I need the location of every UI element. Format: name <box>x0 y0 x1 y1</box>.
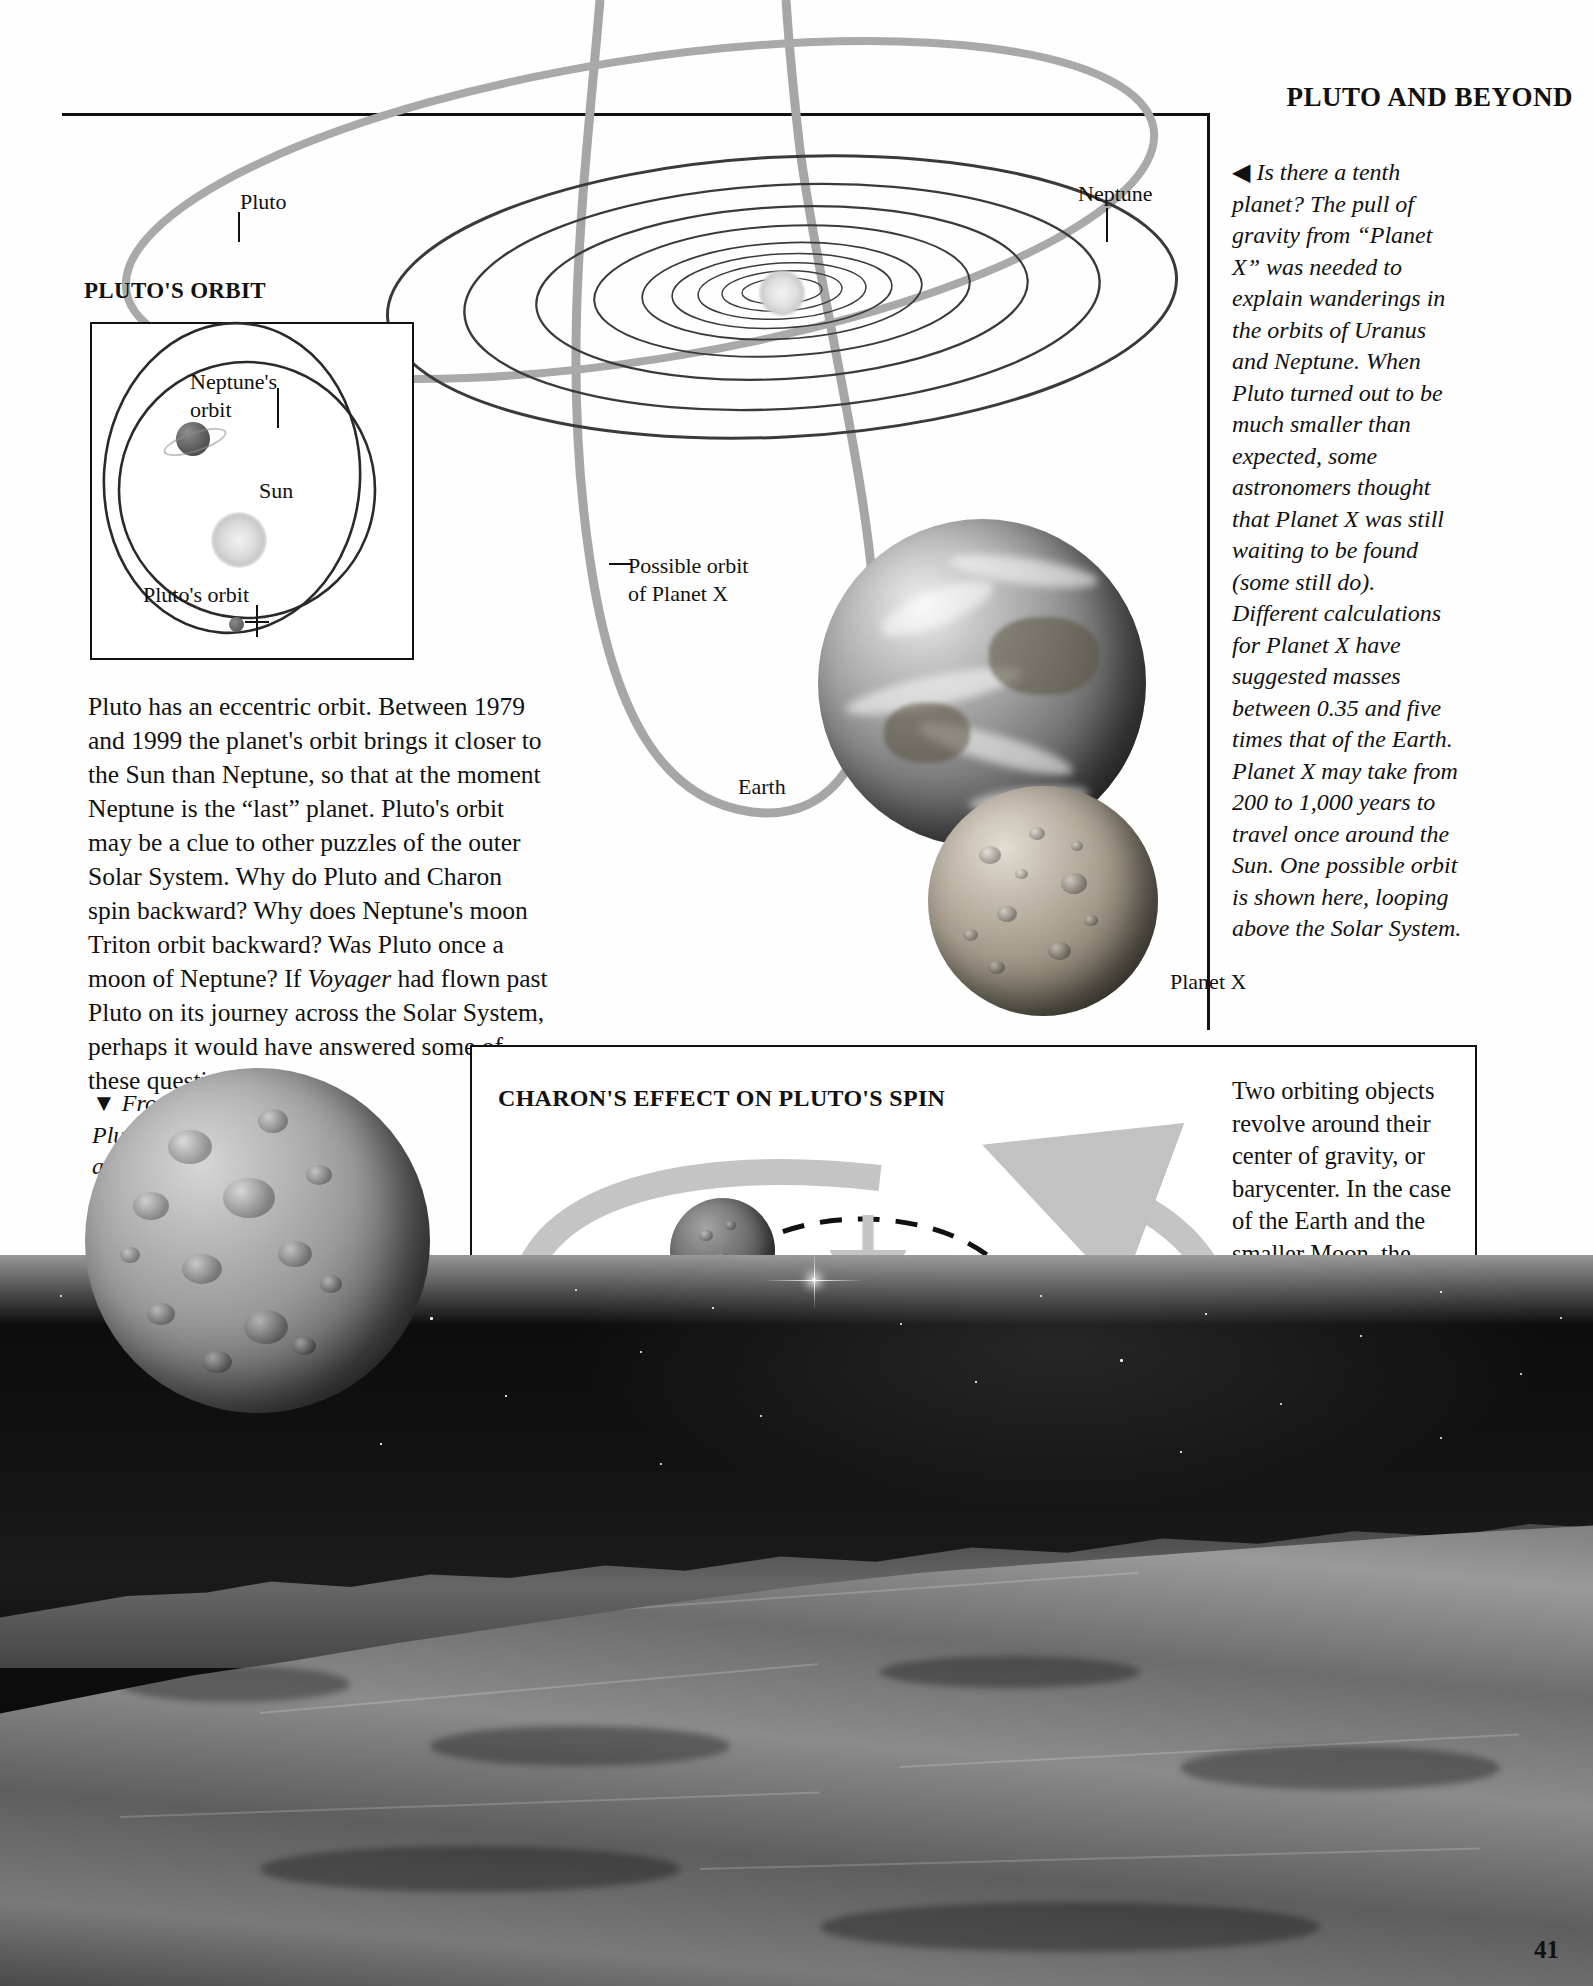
pluto-artwork-sphere <box>85 1068 430 1413</box>
page-root: PLUTO AND BEYOND <box>0 0 1593 1986</box>
bright-star <box>812 1278 816 1282</box>
moon-surface-ground <box>0 1516 1593 1986</box>
page-number: 41 <box>1534 1936 1559 1964</box>
